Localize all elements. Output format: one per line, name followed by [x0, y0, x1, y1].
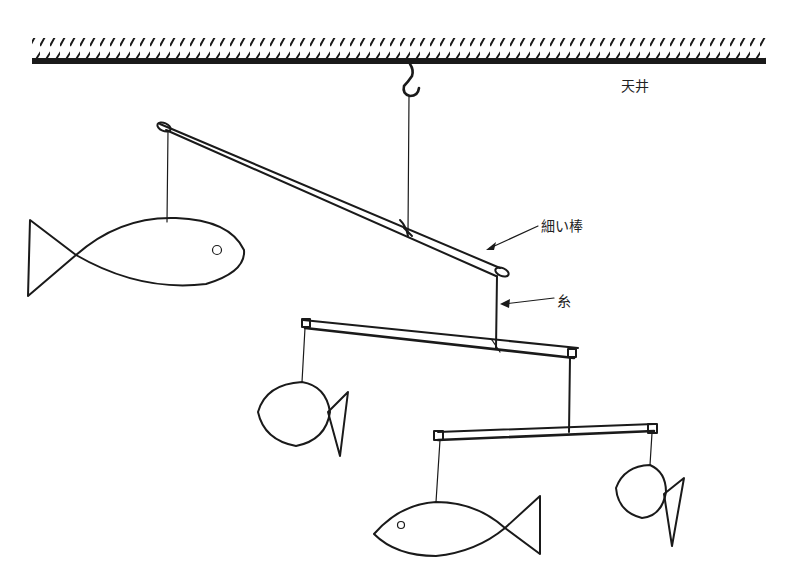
- arrow-thin-rod: [486, 226, 538, 250]
- label-ceiling: 天井: [621, 75, 649, 95]
- hook-icon: [404, 64, 419, 96]
- arrow-string: [500, 298, 554, 308]
- rod-top: [156, 121, 510, 279]
- ceiling: [32, 38, 766, 64]
- fish-small-right: [616, 465, 684, 546]
- string-lower: [569, 357, 570, 432]
- string-large-fish: [167, 130, 168, 222]
- fish-round-middle: [258, 382, 348, 456]
- mobile-illustration: [0, 0, 792, 575]
- rod-middle: [302, 319, 578, 358]
- label-thin-rod: 細い棒: [541, 215, 583, 235]
- string-crosshatch-fish: [302, 328, 305, 382]
- string-small-fish: [650, 433, 652, 465]
- label-string: 糸: [557, 290, 571, 310]
- fish-long-bottom: [374, 496, 540, 556]
- string-middle: [496, 276, 497, 348]
- string-long-fish: [436, 440, 440, 502]
- string-main: [408, 96, 409, 232]
- fish-large-left: [28, 218, 244, 296]
- rod-bottom: [434, 424, 657, 440]
